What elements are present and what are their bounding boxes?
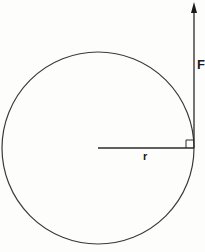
force-arrowhead-icon <box>191 2 197 13</box>
radius-label: r <box>143 151 147 162</box>
right-angle-marker <box>186 140 194 148</box>
force-label: F <box>197 58 205 71</box>
diagram-canvas: F r <box>0 0 205 252</box>
diagram-svg <box>0 0 205 252</box>
